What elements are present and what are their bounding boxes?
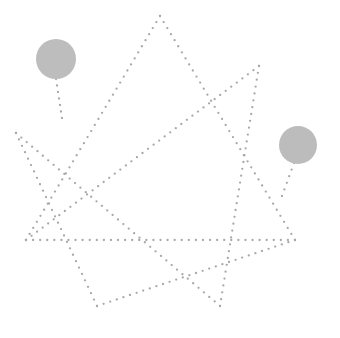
star-edge-1 — [96, 239, 296, 307]
node-right — [279, 126, 317, 164]
star-edge-2 — [15, 132, 98, 307]
star-edge-5 — [25, 65, 260, 241]
horizontal-chord — [25, 239, 296, 241]
node-circles-group — [36, 39, 317, 164]
star-polygon-figure — [0, 0, 340, 338]
stem-left — [55, 78, 63, 119]
star-edge-4 — [219, 65, 260, 307]
star-edge-3 — [15, 132, 221, 307]
diagram-canvas — [0, 0, 340, 338]
star-edge-0 — [159, 15, 296, 241]
node-left — [36, 39, 76, 79]
stem-right — [281, 162, 295, 197]
